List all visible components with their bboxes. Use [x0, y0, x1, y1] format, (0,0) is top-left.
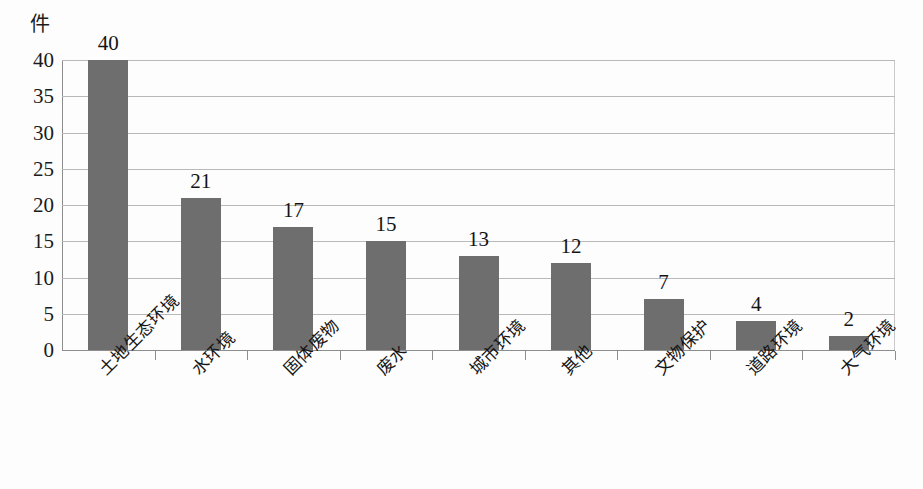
x-axis-tick [247, 351, 248, 360]
bar-value-label: 15 [356, 214, 416, 235]
bar-value-label: 13 [449, 229, 509, 250]
y-axis-tick-label: 15 [8, 231, 54, 252]
bar[interactable] [181, 198, 221, 350]
x-axis-tick [617, 351, 618, 360]
bar-value-label: 4 [726, 294, 786, 315]
bar[interactable] [88, 60, 128, 350]
bar-value-label: 2 [819, 309, 879, 330]
bar-value-label: 40 [78, 33, 138, 54]
x-axis-tick [895, 351, 896, 360]
y-axis-tick-label: 0 [8, 340, 54, 361]
bar[interactable] [366, 241, 406, 350]
bar[interactable] [273, 227, 313, 350]
x-axis-tick [710, 351, 711, 360]
gridline [62, 60, 895, 61]
x-axis-tick [432, 351, 433, 360]
bar[interactable] [551, 263, 591, 350]
x-axis-tick [155, 351, 156, 360]
y-axis-tick-label: 10 [8, 267, 54, 288]
bar-value-label: 17 [263, 200, 323, 221]
bar-value-label: 21 [171, 171, 231, 192]
y-axis-tick-label: 20 [8, 195, 54, 216]
y-axis-tick-label: 5 [8, 303, 54, 324]
bar-value-label: 7 [634, 272, 694, 293]
bar-value-label: 12 [541, 236, 601, 257]
x-axis-tick [340, 351, 341, 360]
gridline [62, 133, 895, 134]
y-axis-unit-label: 件 [30, 14, 50, 34]
gridline [62, 96, 895, 97]
y-axis-tick-label: 35 [8, 86, 54, 107]
bar-chart: 件 0510152025303540 402117151312742 土地生态环… [0, 0, 923, 489]
y-axis-tick-label: 30 [8, 122, 54, 143]
gridline [62, 169, 895, 170]
y-axis-tick-label: 25 [8, 158, 54, 179]
x-axis-tick [802, 351, 803, 360]
x-axis-tick [525, 351, 526, 360]
y-axis-tick-label: 40 [8, 50, 54, 71]
